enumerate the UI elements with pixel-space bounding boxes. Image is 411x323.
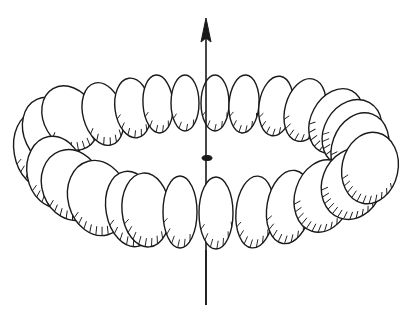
bead [163,176,197,248]
bead [171,75,199,131]
bead [199,177,233,249]
ring-diagram [0,0,411,323]
bead [227,74,261,134]
center-marker [202,156,212,161]
ring-front-beads [21,127,405,305]
center-ellipse-marker [202,156,212,161]
figure-canvas: Line drawing of a ring of flattened elli… [0,0,411,323]
arrow-up-icon [201,18,211,42]
